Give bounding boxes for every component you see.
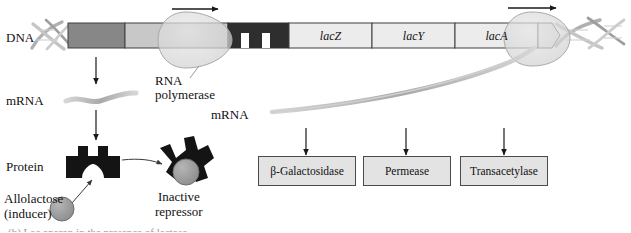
inactive-repressor-shape — [160, 136, 214, 185]
dna-segment-regulatory-gene — [68, 23, 125, 48]
row-label-dna: DNA — [6, 31, 34, 45]
allolactose-label-line2: (inducer) — [4, 207, 52, 221]
figure-caption-clipped: (b) Lac operon in the presence of lactos… — [8, 226, 248, 232]
rna-polymerase-label-line2: polymerase — [155, 88, 215, 102]
row-label-mrna-left: mRNA — [6, 94, 44, 108]
product-box-transacetylase: Transacetylase — [460, 156, 548, 186]
allolactose-bound — [173, 159, 199, 185]
inactive-repressor-label-line1: Inactive — [158, 190, 200, 204]
active-repressor-shape — [66, 146, 120, 178]
gene-label-laca: lacA — [455, 29, 538, 44]
inactive-repressor-label-line2: repressor — [155, 205, 203, 219]
gene-label-lacz: lacZ — [289, 29, 372, 44]
dna-helix-left — [32, 20, 70, 49]
dna-segment-operator — [228, 23, 289, 48]
arrow-repressor-conformation-change — [122, 159, 162, 164]
allolactose-label-line1: Allolactose — [4, 192, 63, 206]
mrna-right-strand — [272, 48, 534, 112]
product-box-beta-galactosidase: β-Galactosidase — [258, 156, 356, 186]
product-label-transacetylase: Transacetylase — [470, 165, 538, 177]
rna-polymerase-label-line1: RNA — [155, 74, 182, 88]
rna-polymerase-left — [158, 12, 232, 68]
row-label-mrna-right: mRNA — [211, 108, 249, 122]
product-box-permease: Permease — [363, 156, 451, 186]
product-label-permease: Permease — [385, 165, 429, 177]
row-label-protein: Protein — [6, 160, 44, 174]
gene-label-lacy: lacY — [372, 29, 455, 44]
mrna-left-strand — [66, 93, 136, 102]
arrow-allolactose-to-repressor — [72, 180, 92, 203]
product-label-beta-galactosidase: β-Galactosidase — [270, 165, 344, 177]
lac-operon-diagram: DNA mRNA Protein mRNA RNA polymerase Ina… — [0, 0, 631, 233]
